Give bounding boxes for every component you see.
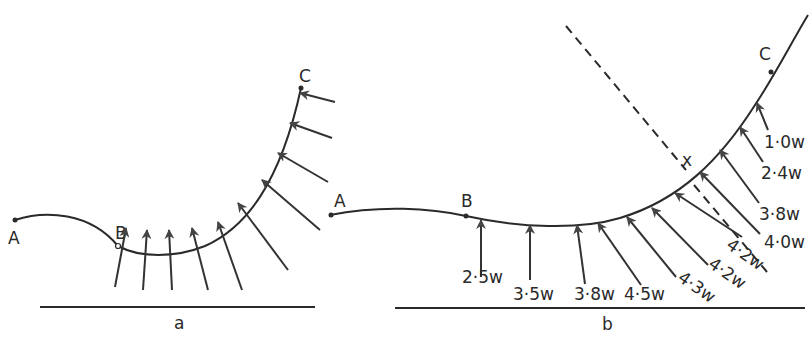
force-label: 4·0w — [764, 232, 805, 252]
label-point-x: x — [682, 150, 692, 170]
force-label: 2·4w — [761, 163, 802, 183]
caption-b: b — [602, 314, 613, 334]
arrow-icon — [290, 123, 332, 138]
force-arrows-b — [481, 103, 768, 285]
arrow-icon — [278, 153, 328, 182]
force-label: 3·8w — [574, 284, 615, 304]
figure-b: A B C x 2·5w 3·5w 3·8w 4·5w 4·3w 4·2w — [329, 15, 809, 334]
force-label: 1·0w — [764, 132, 805, 152]
arch-curve-b — [330, 15, 808, 226]
label-point-c: C — [299, 66, 311, 86]
arrow-icon — [740, 127, 763, 162]
point-a-marker — [13, 218, 18, 223]
label-point-a: A — [8, 228, 20, 248]
force-label: 4·5w — [624, 284, 665, 304]
arrow-icon — [218, 222, 242, 290]
arrow-icon — [192, 228, 208, 290]
point-a-marker — [329, 213, 334, 218]
label-point-b: B — [461, 191, 473, 211]
point-b-marker — [464, 214, 469, 219]
arrow-icon — [675, 193, 742, 237]
arrow-icon — [238, 203, 288, 270]
point-c-marker — [769, 70, 774, 75]
force-label: 2·5w — [462, 267, 503, 287]
thrust-line-upper — [566, 26, 686, 170]
force-label: 3·8w — [759, 204, 800, 224]
arrow-icon — [577, 225, 585, 284]
force-arrows-a — [115, 93, 335, 290]
label-point-c: C — [759, 44, 771, 64]
figure-a: A B C a — [8, 66, 335, 333]
arrow-icon — [143, 230, 147, 290]
caption-a: a — [174, 313, 184, 333]
arrow-icon — [720, 150, 759, 203]
diagram-canvas: A B C a A B C x — [0, 0, 811, 339]
arrow-icon — [169, 230, 172, 290]
arrow-icon — [598, 223, 641, 285]
force-label: 3·5w — [513, 284, 554, 304]
point-c-marker — [299, 86, 304, 91]
force-labels-b: 2·5w 3·5w 3·8w 4·5w 4·3w 4·2w 4·2w 4·0w … — [462, 132, 805, 307]
arrow-icon — [757, 103, 768, 130]
point-b-marker — [116, 244, 121, 249]
arrow-icon — [300, 93, 335, 102]
arrow-icon — [262, 180, 320, 230]
label-point-a: A — [334, 191, 346, 211]
